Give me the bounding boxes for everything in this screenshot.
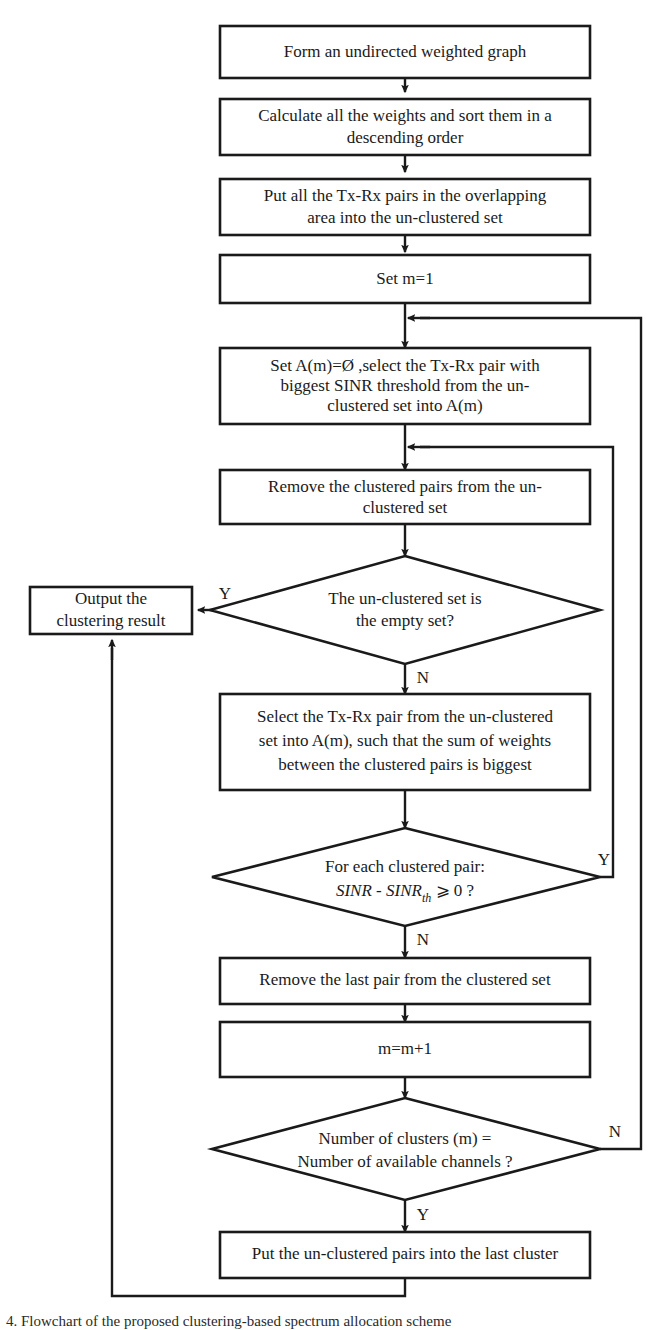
node-decision-sinr-threshold-shape [212, 828, 600, 926]
node-put-pairs-unclustered-line1: Put all the Tx-Rx pairs in the overlappi… [264, 186, 547, 205]
node-decision-sinr-threshold-line1: For each clustered pair: [325, 857, 485, 876]
node-form-graph-line1: Form an undirected weighted graph [284, 42, 527, 61]
node-output-clustering-result-line1: Output the [75, 589, 147, 608]
sinr-term-b: - [372, 881, 386, 900]
node-decision-clusters-vs-channels-line2: Number of available channels ? [297, 1152, 512, 1171]
node-output-clustering-result[interactable]: Output the clustering result [30, 587, 192, 634]
node-decision-unclustered-empty[interactable]: The un-clustered set is the empty set? [210, 556, 600, 664]
node-remove-clustered-pairs-line2: clustered set [363, 498, 448, 517]
node-remove-clustered-pairs-line1: Remove the clustered pairs from the un- [268, 477, 542, 496]
node-remove-last-pair[interactable]: Remove the last pair from the clustered … [220, 958, 590, 1004]
edge-label-d2-yes: Y [598, 850, 610, 869]
node-decision-clusters-vs-channels-shape [212, 1098, 600, 1200]
edge-label-d1-no: N [417, 668, 429, 687]
sinr-subscript-th: th [422, 891, 431, 905]
node-calculate-weights[interactable]: Calculate all the weights and sort them … [220, 99, 590, 155]
flowchart-svg: Form an undirected weighted graph Calcul… [0, 0, 669, 1330]
edge-label-d1-yes: Y [219, 584, 231, 603]
node-decision-clusters-vs-channels-line1: Number of clusters (m) = [319, 1129, 492, 1148]
node-put-pairs-unclustered-line2: area into the un-clustered set [307, 208, 503, 227]
node-select-pair-max-weights-line1: Select the Tx-Rx pair from the un-cluste… [257, 707, 554, 726]
flowchart-canvas: Form an undirected weighted graph Calcul… [0, 0, 669, 1330]
node-decision-unclustered-empty-line1: The un-clustered set is [328, 589, 481, 608]
node-form-graph[interactable]: Form an undirected weighted graph [220, 26, 590, 78]
node-remove-last-pair-line1: Remove the last pair from the clustered … [259, 970, 551, 989]
sinr-term-c: SINR [386, 881, 423, 900]
node-put-unclustered-last-cluster-line1: Put the un-clustered pairs into the last… [252, 1244, 559, 1263]
node-calculate-weights-line1: Calculate all the weights and sort them … [258, 106, 552, 125]
node-increment-m[interactable]: m=m+1 [220, 1022, 590, 1077]
node-increment-m-line1: m=m+1 [378, 1039, 432, 1058]
figure-caption: 4. Flowchart of the proposed clustering-… [0, 1313, 669, 1330]
node-decision-unclustered-empty-line2: the empty set? [356, 611, 454, 630]
edge-label-d3-no: N [609, 1122, 621, 1141]
node-set-m-1-line1: Set m=1 [376, 269, 433, 288]
edge-label-d3-yes: Y [417, 1205, 429, 1224]
node-set-m-1[interactable]: Set m=1 [220, 255, 590, 303]
edge-label-d2-no: N [417, 930, 429, 949]
sinr-term-a: SINR [336, 881, 373, 900]
node-set-am-select-biggest-line3: clustered set into A(m) [327, 396, 482, 415]
node-put-unclustered-last-cluster[interactable]: Put the un-clustered pairs into the last… [220, 1232, 590, 1278]
node-put-pairs-unclustered[interactable]: Put all the Tx-Rx pairs in the overlappi… [220, 179, 590, 235]
sinr-term-d: ⩾ 0 ? [431, 881, 474, 900]
node-decision-clusters-vs-channels[interactable]: Number of clusters (m) = Number of avail… [212, 1098, 600, 1200]
node-select-pair-max-weights[interactable]: Select the Tx-Rx pair from the un-cluste… [220, 694, 590, 790]
node-set-am-select-biggest-line2: biggest SINR threshold from the un- [281, 376, 530, 395]
node-remove-clustered-pairs[interactable]: Remove the clustered pairs from the un- … [220, 470, 590, 524]
node-set-am-select-biggest[interactable]: Set A(m)=Ø ,select the Tx-Rx pair with b… [220, 348, 590, 424]
node-calculate-weights-line2: descending order [347, 128, 464, 147]
node-output-clustering-result-line2: clustering result [56, 611, 165, 630]
node-set-am-select-biggest-line1: Set A(m)=Ø ,select the Tx-Rx pair with [270, 356, 540, 375]
node-select-pair-max-weights-line2: set into A(m), such that the sum of weig… [259, 731, 551, 750]
node-decision-sinr-threshold[interactable]: For each clustered pair: SINR - SINRth ⩾… [212, 828, 600, 926]
node-select-pair-max-weights-line3: between the clustered pairs is biggest [278, 755, 532, 774]
